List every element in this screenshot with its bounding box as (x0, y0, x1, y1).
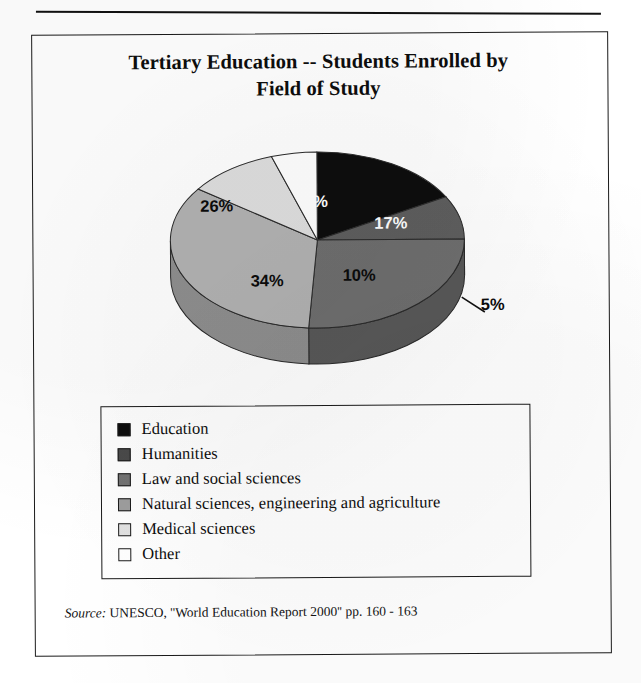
legend-item: Humanities (118, 440, 440, 467)
legend-swatch-icon (118, 498, 131, 511)
header-rule (36, 11, 601, 15)
legend-item: Natural sciences, engineering and agricu… (118, 490, 440, 517)
slice-label-humanities: 8% (304, 192, 328, 211)
source-keyword: Source: (65, 605, 107, 620)
legend-item-label: Law and social sciences (142, 470, 301, 487)
legend-item-label: Natural sciences, engineering and agricu… (142, 495, 440, 513)
legend-item: Medical sciences (118, 515, 440, 542)
legend-item-label: Humanities (142, 446, 218, 463)
legend-item-label: Education (141, 421, 208, 438)
legend: EducationHumanitiesLaw and social scienc… (100, 404, 531, 580)
legend-swatch-icon (118, 473, 131, 486)
document-page: Tertiary Education -- Students Enrolled … (0, 0, 641, 683)
slice-label-medical: 10% (343, 266, 376, 285)
source-text: UNESCO, ''World Education Report 2000'' … (106, 603, 417, 620)
legend-swatch-icon (118, 548, 131, 561)
legend-item: Education (117, 415, 439, 442)
legend-swatch-icon (117, 423, 130, 436)
pie-top-face (170, 151, 465, 329)
source-note: Source: UNESCO, ''World Education Report… (65, 603, 418, 621)
slice-label-education: 17% (374, 213, 407, 232)
legend-swatch-icon (118, 523, 131, 536)
legend-items: EducationHumanitiesLaw and social scienc… (117, 415, 440, 567)
legend-swatch-icon (118, 448, 131, 461)
legend-item: Law and social sciences (118, 465, 440, 492)
legend-item: Other (118, 540, 440, 567)
legend-item-label: Medical sciences (142, 521, 255, 538)
slice-label-law: 26% (200, 197, 233, 216)
slice-label-other: 5% (481, 295, 505, 314)
slice-label-natural: 34% (251, 271, 284, 290)
legend-item-label: Other (142, 546, 180, 563)
pie-chart-svg (31, 31, 610, 435)
